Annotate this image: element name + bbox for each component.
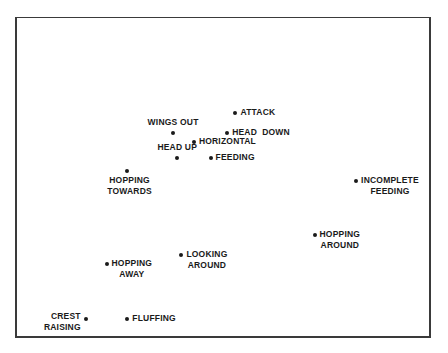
- point-label: HOPPING AWAY: [112, 258, 153, 280]
- point-label: FEEDING: [216, 152, 255, 163]
- point-marker: [171, 131, 175, 135]
- point-label: HOPPING TOWARDS: [107, 175, 152, 197]
- point-marker: [209, 156, 213, 160]
- point-label: INCOMPLETE FEEDING: [361, 175, 419, 197]
- point-label: LOOKING AROUND: [186, 249, 227, 271]
- point-label: HEAD UP: [157, 142, 197, 153]
- point-marker: [84, 317, 88, 321]
- point-marker: [105, 262, 109, 266]
- point-label: HOPPING AROUND: [320, 229, 361, 251]
- point-marker: [354, 179, 358, 183]
- point-label: FLUFFING: [132, 313, 176, 324]
- point-label: WINGS OUT: [148, 117, 199, 128]
- point-label: HORIZONTAL: [199, 136, 256, 147]
- point-label: ATTACK: [240, 107, 275, 118]
- point-label: CREST RAISING: [44, 311, 81, 333]
- point-marker: [313, 233, 317, 237]
- point-marker: [225, 131, 229, 135]
